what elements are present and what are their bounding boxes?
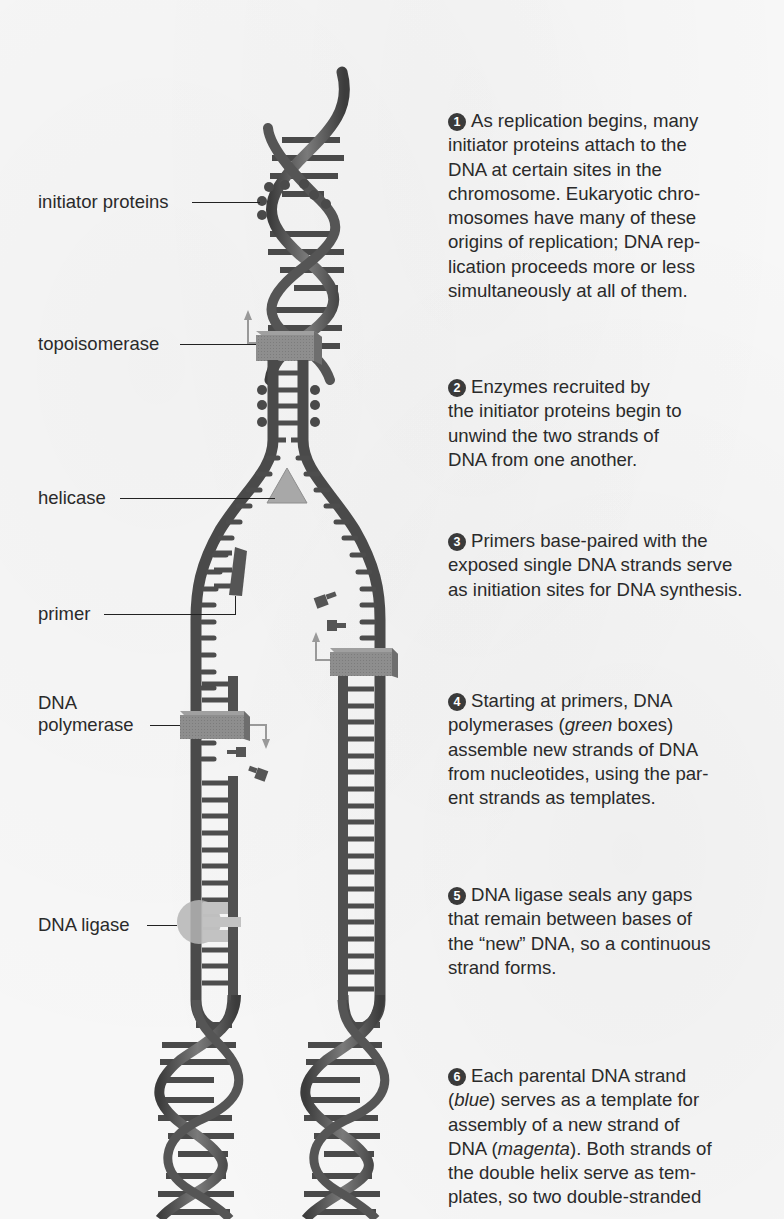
step-5-line: strand forms. bbox=[448, 957, 557, 978]
label-primer: primer bbox=[38, 603, 90, 625]
stem-base-pairs bbox=[278, 373, 298, 440]
right-stem-pairs bbox=[348, 689, 374, 989]
step-4-description: 4Starting at primers, DNA polymerases (g… bbox=[448, 689, 778, 810]
parental-strands bbox=[196, 360, 380, 1030]
step-1-description: 1As replication begins, many initiator p… bbox=[448, 109, 778, 303]
step-2-line: Enzymes recruited by bbox=[471, 376, 650, 397]
daughter-helix-right bbox=[304, 995, 385, 1219]
label-helicase: helicase bbox=[38, 487, 106, 509]
step-4-line: Starting at primers, DNA bbox=[471, 690, 673, 711]
step-4-number-badge: 4 bbox=[448, 693, 466, 711]
step-4-line: boxes) bbox=[612, 714, 673, 735]
step-4-line: from nucleotides, using the par- bbox=[448, 763, 708, 784]
step-1-line: As replication begins, many bbox=[471, 110, 698, 131]
step-6-line: the double helix serve as tem- bbox=[448, 1162, 696, 1183]
leader-line-primer-vertical bbox=[235, 596, 236, 615]
leader-line-dna-ligase bbox=[147, 925, 177, 926]
step-1-line: simultaneously at all of them. bbox=[448, 280, 688, 301]
leader-line-topoisomerase bbox=[180, 344, 256, 345]
step-2-description: 2Enzymes recruited by the initiator prot… bbox=[448, 375, 778, 472]
step-1-line: chromosome. Eukaryotic chro- bbox=[448, 183, 700, 204]
step-5-line: the “new” DNA, so a continuous bbox=[448, 933, 711, 954]
step-5-number-badge: 5 bbox=[448, 887, 466, 905]
step-2-line: the initiator proteins begin to bbox=[448, 400, 682, 421]
step-6-line: assembly of a new strand of bbox=[448, 1114, 680, 1135]
label-topoisomerase: topoisomerase bbox=[38, 333, 159, 355]
step-5-line: that remain between bases of bbox=[448, 908, 692, 929]
step-6-line: DNA ( bbox=[448, 1138, 498, 1159]
step-3-line: exposed single DNA strands serve bbox=[448, 554, 732, 575]
free-nucleotides-right bbox=[314, 591, 346, 631]
step-1-line: lication proceeds more or less bbox=[448, 256, 695, 277]
step-3-number-badge: 3 bbox=[448, 533, 466, 551]
label-initiator-proteins: initiator proteins bbox=[38, 191, 169, 213]
label-dna-polymerase-line2: polymerase bbox=[38, 714, 134, 736]
daughter-helix-left bbox=[158, 995, 239, 1219]
step-2-line: DNA from one another. bbox=[448, 449, 637, 470]
step-3-line: as initiation sites for DNA synthesis. bbox=[448, 579, 743, 600]
left-new-strand-lower bbox=[228, 776, 238, 1000]
step-6-emphasis: blue bbox=[454, 1089, 489, 1110]
leader-line-dna-polymerase bbox=[150, 725, 180, 726]
step-6-description: 6Each parental DNA strand (blue) serves … bbox=[448, 1064, 778, 1210]
step-2-number-badge: 2 bbox=[448, 379, 466, 397]
label-dna-ligase: DNA ligase bbox=[38, 914, 130, 936]
left-okazaki-fragment-upper bbox=[228, 676, 238, 716]
step-3-description: 3Primers base-paired with the exposed si… bbox=[448, 529, 778, 602]
step-4-line: ent strands as templates. bbox=[448, 787, 656, 808]
left-upper-pairs bbox=[202, 684, 228, 700]
left-primer-pairs bbox=[214, 553, 232, 586]
leader-line-primer bbox=[104, 614, 236, 615]
step-6-line: plates, so two double-stranded bbox=[448, 1186, 701, 1207]
step-1-number-badge: 1 bbox=[448, 113, 466, 131]
step-2-line: unwind the two strands of bbox=[448, 425, 659, 446]
step-4-emphasis: green bbox=[565, 714, 613, 735]
step-6-emphasis: magenta bbox=[498, 1138, 570, 1159]
step-5-description: 5DNA ligase seals any gaps that remain b… bbox=[448, 883, 778, 980]
leader-line-initiator-proteins bbox=[192, 202, 260, 203]
step-6-line: ) serves as a template for bbox=[489, 1089, 699, 1110]
topoisomerase-box bbox=[244, 310, 322, 365]
step-6-number-badge: 6 bbox=[448, 1068, 466, 1086]
step-1-line: DNA at certain sites in the bbox=[448, 159, 662, 180]
right-new-strand bbox=[338, 676, 348, 1000]
step-6-line: Each parental DNA strand bbox=[471, 1065, 686, 1086]
step-1-line: initiator proteins attach to the bbox=[448, 134, 687, 155]
step-4-line: assemble new strands of DNA bbox=[448, 739, 698, 760]
step-1-line: origins of replication; DNA rep- bbox=[448, 231, 700, 252]
step-1-line: mosomes have many of these bbox=[448, 207, 696, 228]
leader-line-helicase bbox=[120, 498, 275, 499]
step-5-line: DNA ligase seals any gaps bbox=[471, 884, 692, 905]
step-4-line: polymerases ( bbox=[448, 714, 565, 735]
step-3-line: Primers base-paired with the bbox=[471, 530, 708, 551]
step-6-line: ). Both strands of bbox=[570, 1138, 712, 1159]
label-dna-polymerase-line1: DNA bbox=[38, 692, 77, 714]
left-lower-pairs bbox=[202, 783, 228, 983]
